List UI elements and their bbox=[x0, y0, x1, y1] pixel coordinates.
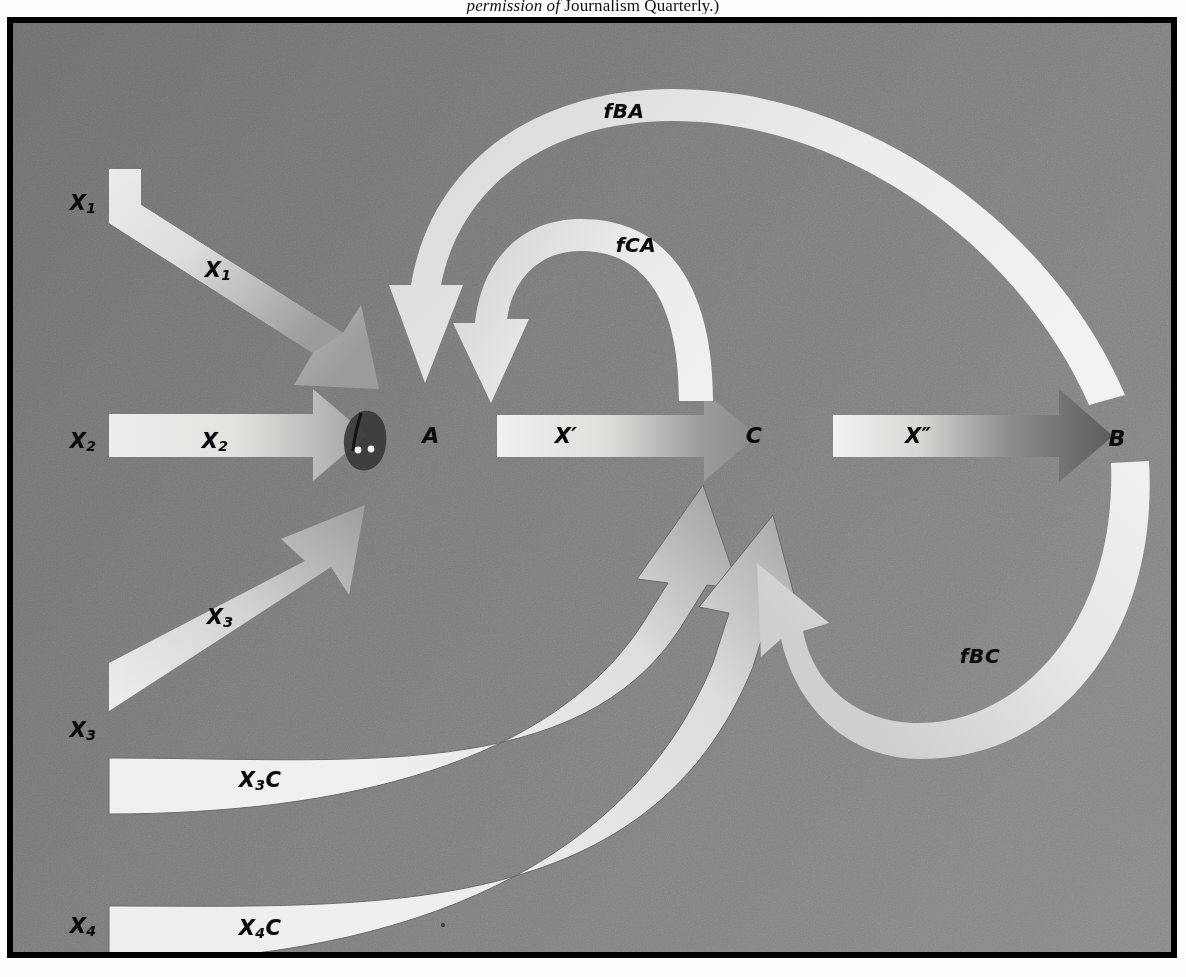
flow-arrow-x2 bbox=[109, 389, 367, 481]
node-label-a: A bbox=[422, 423, 439, 448]
flow-arrow-x1 bbox=[109, 169, 379, 389]
flow-arrow-x-double-prime bbox=[833, 389, 1113, 482]
scan-artifact-blob bbox=[344, 411, 386, 471]
feedback-label-fca: fCA bbox=[616, 233, 657, 257]
label-x1-arrow: X1 bbox=[205, 258, 232, 283]
node-label-b: B bbox=[1108, 426, 1125, 451]
figure-caption: permission of Journalism Quarterly.) bbox=[0, 0, 1186, 14]
diagram-artwork bbox=[13, 23, 1171, 952]
diagram-panel: X1 X2 X3 X4 X1 X2 X3 X3C bbox=[13, 23, 1171, 952]
feedback-label-fbc: fBC bbox=[960, 644, 1000, 668]
feedback-label-fba: fBA bbox=[603, 99, 644, 123]
label-x2-arrow: X2 bbox=[202, 429, 229, 454]
caption-italic: permission of bbox=[467, 0, 565, 14]
label-x3-arrow: X3 bbox=[207, 605, 234, 630]
caption-roman: Journalism Quarterly.) bbox=[564, 0, 719, 14]
feedback-arrow-fca bbox=[453, 219, 713, 403]
flow-arrow-x3 bbox=[109, 505, 365, 711]
label-x4c-arrow: X4C bbox=[239, 916, 281, 941]
label-x4-source: X4 bbox=[70, 914, 97, 939]
figure-page: permission of Journalism Quarterly.) bbox=[0, 0, 1186, 977]
label-x3c-arrow: X3C bbox=[239, 768, 281, 793]
feedback-arrow-fbc bbox=[757, 461, 1150, 759]
label-x3-source: X3 bbox=[70, 718, 97, 743]
label-x1-source: X1 bbox=[70, 191, 97, 216]
node-label-c: C bbox=[746, 423, 762, 448]
label-x-prime-arrow: X′ bbox=[555, 424, 577, 448]
label-x2-source: X2 bbox=[70, 429, 97, 454]
flow-arrow-x-prime bbox=[497, 391, 757, 481]
scan-speck bbox=[441, 923, 445, 927]
figure-frame: X1 X2 X3 X4 X1 X2 X3 X3C bbox=[7, 17, 1177, 958]
label-x-double-prime-arrow: X″ bbox=[905, 424, 931, 448]
